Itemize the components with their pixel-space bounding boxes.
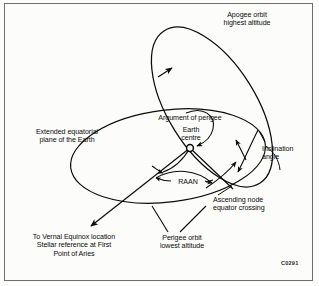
label-extended-equatorial-plane: Extended equatorial plane of the Earth	[11, 128, 123, 145]
satellite-orbit-ellipse	[127, 7, 297, 206]
orbit-direction-arrow-icon	[158, 68, 172, 77]
label-raan-text: RAAN	[178, 178, 198, 186]
label-vernal-line2: Stellar reference at First	[37, 241, 111, 249]
label-vernal-line1: To Vernal Equinox location	[33, 233, 115, 241]
label-apogee-line1: Apogee orbit	[227, 11, 267, 19]
label-earthcentre-line2: centre	[181, 134, 200, 142]
label-inclination-angle: Inclination angle	[262, 145, 314, 162]
label-raan: RAAN	[172, 178, 204, 186]
label-inclination-line2: angle	[262, 153, 279, 161]
label-ascnode-line2: equator crossing	[213, 204, 265, 212]
label-equatorial-line2: plane of the Earth	[39, 136, 94, 144]
label-equatorial-line1: Extended equatorial	[36, 128, 98, 136]
label-argperigee-line1: Argument of perigee	[158, 114, 221, 122]
orbital-elements-figure: Apogee orbit highest altitude Extended e…	[0, 0, 319, 286]
figure-code: C0291	[281, 259, 313, 267]
earth-centre-node	[187, 145, 194, 152]
label-perigee-orbit: Perigee orbit lowest altitude	[139, 234, 225, 251]
label-argument-of-perigee: Argument of perigee	[140, 114, 240, 122]
label-ascending-node: Ascending node equator crossing	[213, 196, 311, 213]
label-perigee-line1: Perigee orbit	[162, 234, 202, 242]
label-ascnode-line1: Ascending node	[213, 196, 263, 204]
inclination-leader	[259, 131, 265, 142]
label-inclination-line1: Inclination	[262, 145, 293, 153]
perigee-leader-lines	[152, 206, 206, 232]
label-perigee-line2: lowest altitude	[160, 242, 204, 250]
label-vernal-line3: Point of Aries	[53, 250, 94, 258]
label-earthcentre-line1: Earth	[183, 126, 200, 134]
label-apogee-line2: highest altitude	[224, 19, 271, 27]
label-earth-centre: Earth centre	[165, 126, 217, 143]
vernal-equinox-ray	[91, 148, 190, 226]
label-apogee-orbit: Apogee orbit highest altitude	[192, 11, 302, 28]
label-vernal-equinox: To Vernal Equinox location Stellar refer…	[9, 233, 139, 258]
